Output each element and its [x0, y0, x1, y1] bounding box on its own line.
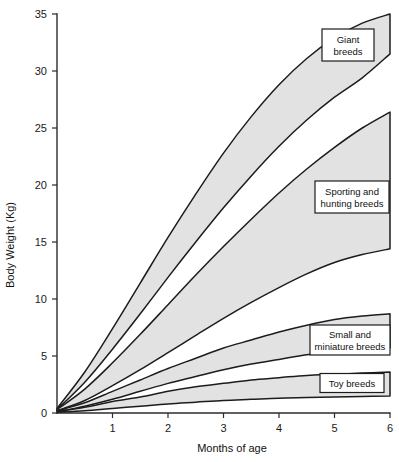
y-tick-label: 25 — [35, 122, 47, 134]
annotation-label-toy: Toy breeds — [329, 378, 376, 389]
y-tick-label: 30 — [35, 65, 47, 77]
annotation-label-small: miniature breeds — [315, 341, 386, 352]
chart-svg: 05101520253035 123456 Body Weight (Kg) M… — [0, 0, 399, 462]
annotation-giant: Giantbreeds — [322, 29, 374, 61]
annotation-label-small: Small and — [329, 329, 371, 340]
y-tick-label: 5 — [41, 350, 47, 362]
x-tick-label: 4 — [276, 422, 282, 434]
x-tick-label: 2 — [165, 422, 171, 434]
x-tick-label: 3 — [220, 422, 226, 434]
annotation-label-sporting: hunting breeds — [321, 198, 384, 209]
y-axis-ticks: 05101520253035 — [35, 8, 57, 419]
y-tick-label: 15 — [35, 236, 47, 248]
annotation-label-giant: breeds — [333, 46, 362, 57]
x-tick-label: 6 — [387, 422, 393, 434]
annotation-sporting: Sporting andhunting breeds — [315, 181, 389, 213]
annotation-label-giant: Giant — [337, 34, 360, 45]
x-tick-label: 1 — [109, 422, 115, 434]
x-axis-ticks: 123456 — [109, 413, 393, 434]
x-tick-label: 5 — [331, 422, 337, 434]
annotation-label-sporting: Sporting and — [325, 186, 379, 197]
y-tick-label: 35 — [35, 8, 47, 20]
annotation-toy: Toy breeds — [320, 374, 384, 393]
y-axis-title: Body Weight (Kg) — [4, 202, 16, 288]
x-axis-title: Months of age — [197, 442, 267, 454]
annotation-small: Small andminiature breeds — [310, 325, 390, 355]
y-tick-label: 10 — [35, 293, 47, 305]
y-tick-label: 0 — [41, 407, 47, 419]
growth-chart: 05101520253035 123456 Body Weight (Kg) M… — [0, 0, 399, 462]
y-tick-label: 20 — [35, 179, 47, 191]
